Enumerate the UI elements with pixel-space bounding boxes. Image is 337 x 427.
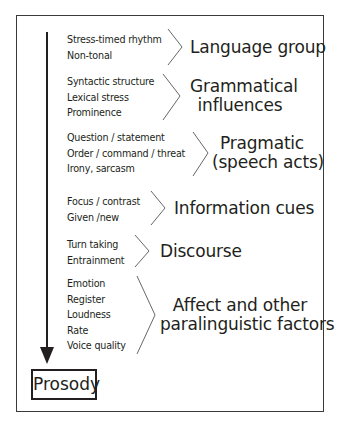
group-grammatical-items: Syntactic structure Lexical stress Promi… (67, 74, 154, 121)
chevron-right-icon (191, 131, 211, 177)
item: Syntactic structure (67, 74, 154, 90)
item: Prominence (67, 105, 154, 121)
item: Question / statement (67, 130, 185, 146)
item: Given /new (67, 210, 140, 226)
item: Entrainment (67, 253, 124, 269)
item: Order / command / threat (67, 146, 185, 162)
group-discourse-items: Turn taking Entrainment (67, 237, 124, 268)
item: Non-tonal (67, 48, 162, 64)
item: Rate (67, 323, 126, 339)
group-information-label: Information cues (174, 199, 314, 218)
item: Stress-timed rhythm (67, 32, 162, 48)
group-language-label: Language group (190, 38, 326, 57)
item: Emotion (67, 276, 126, 292)
chevron-right-icon (166, 28, 186, 66)
group-affect-label: Affect and other paralinguistic factors (160, 296, 320, 334)
group-language-items: Stress-timed rhythm Non-tonal (67, 32, 162, 63)
flow-arrow-line (46, 32, 48, 350)
chevron-right-icon (149, 190, 169, 226)
item: Loudness (67, 307, 126, 323)
arrow-down-icon (40, 347, 54, 364)
prosody-box: Prosody (31, 369, 97, 400)
group-information-items: Focus / contrast Given /new (67, 194, 140, 225)
item: Irony, sarcasm (67, 161, 185, 177)
chevron-right-icon (161, 73, 183, 121)
group-grammatical-label: Grammatical influences (190, 77, 290, 115)
group-affect-items: Emotion Register Loudness Rate Voice qua… (67, 276, 126, 354)
item: Register (67, 292, 126, 308)
item: Focus / contrast (67, 194, 140, 210)
chevron-right-icon (135, 275, 159, 355)
item: Turn taking (67, 237, 124, 253)
group-pragmatic-items: Question / statement Order / command / t… (67, 130, 185, 177)
item: Lexical stress (67, 90, 154, 106)
chevron-right-icon (133, 234, 153, 268)
group-discourse-label: Discourse (160, 242, 242, 261)
item: Voice quality (67, 338, 126, 354)
group-pragmatic-label: Pragmatic (speech acts) (212, 134, 312, 172)
